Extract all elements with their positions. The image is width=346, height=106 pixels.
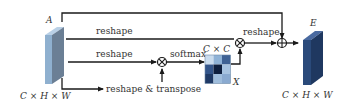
attention-matrix [205, 55, 231, 84]
add-operator [278, 39, 287, 48]
input-feature-block-a [45, 27, 64, 84]
input-block-label: A [45, 15, 53, 25]
output-feature-block-e [303, 31, 323, 85]
matrix-to-matmul-line [231, 49, 240, 64]
matrix-dims-label: C × C [203, 44, 230, 54]
matmul-operator-1 [158, 58, 167, 67]
output-block-label: E [309, 18, 317, 28]
softmax-label: softmax [170, 49, 206, 59]
reshape-top-label: reshape [96, 26, 133, 36]
input-dims-label: C × H × W [20, 91, 71, 101]
output-dims-label: C × H × W [282, 90, 333, 100]
matmul-operator-2 [236, 39, 245, 48]
matrix-x-label: X [232, 77, 240, 87]
reshape-mid-label: reshape [96, 49, 133, 59]
reshape-transpose-label: reshape & transpose [106, 84, 201, 94]
reshape-out-label: reshape [243, 27, 280, 37]
channel-attention-diagram: A C × H × W reshape reshape reshape & tr… [0, 0, 346, 106]
